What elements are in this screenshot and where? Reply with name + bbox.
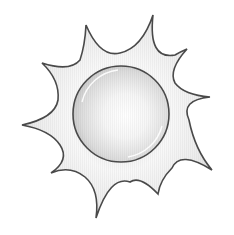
sun-icon	[0, 0, 234, 235]
disc-texture	[73, 66, 169, 162]
sun-illustration	[0, 0, 234, 235]
